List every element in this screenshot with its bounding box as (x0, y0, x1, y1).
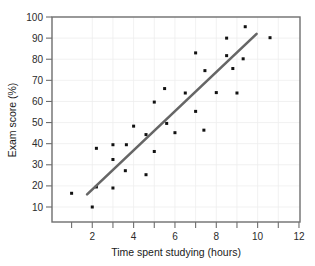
y-tick-label: 80 (32, 54, 44, 65)
x-tick-label: 2 (89, 231, 95, 242)
x-tick-label: 4 (131, 231, 137, 242)
y-tick-label: 70 (32, 75, 44, 86)
data-point (231, 67, 234, 70)
y-axis-label: Exam score (%) (6, 83, 18, 158)
data-point (194, 110, 197, 113)
data-point (165, 122, 168, 125)
x-tick-label: 6 (172, 231, 178, 242)
y-tick-label: 20 (32, 180, 44, 191)
data-point (173, 131, 176, 134)
data-point (111, 187, 114, 190)
trend-line (87, 34, 256, 194)
data-point (111, 143, 114, 146)
y-tick-label: 30 (32, 159, 44, 170)
x-tick-label: 8 (214, 231, 220, 242)
data-point (235, 92, 238, 95)
y-tick-label: 50 (32, 117, 44, 128)
data-point (194, 51, 197, 54)
scatter-plot: 24681012 102030405060708090100 Time spen… (0, 0, 315, 266)
data-point (225, 54, 228, 57)
data-point (145, 133, 148, 136)
data-point (125, 143, 128, 146)
data-point (242, 57, 245, 60)
x-tick-label: 10 (252, 231, 264, 242)
data-point (70, 192, 73, 195)
data-point (95, 147, 98, 150)
x-tick-labels: 24681012 (89, 231, 304, 242)
data-point (215, 91, 218, 94)
data-point (91, 206, 94, 209)
data-point (225, 37, 228, 40)
data-point (184, 92, 187, 95)
data-point (132, 125, 135, 128)
y-tick-label: 100 (26, 12, 43, 23)
data-point (202, 129, 205, 132)
y-tick-labels: 102030405060708090100 (26, 12, 43, 213)
x-axis-label: Time spent studying (hours) (111, 246, 241, 258)
y-tick-label: 60 (32, 96, 44, 107)
y-tick-label: 90 (32, 33, 44, 44)
data-point (244, 25, 247, 28)
data-point (153, 101, 156, 104)
data-point (269, 36, 272, 39)
data-point (124, 169, 127, 172)
data-point (111, 158, 114, 161)
y-tick-label: 40 (32, 138, 44, 149)
chart-container: 24681012 102030405060708090100 Time spen… (0, 0, 315, 266)
data-point (153, 150, 156, 153)
x-tick-label: 12 (293, 231, 305, 242)
data-point (145, 173, 148, 176)
y-tick-label: 10 (32, 202, 44, 213)
data-point (203, 69, 206, 72)
data-point (163, 87, 166, 90)
